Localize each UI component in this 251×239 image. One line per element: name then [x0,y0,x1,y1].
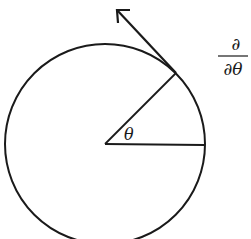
tangent-arrow-icon [117,10,176,73]
angle-label: θ [124,125,134,144]
angled-radius [105,73,176,144]
partial-derivative-label: ∂ ∂θ [218,34,248,79]
diagram-canvas: θ ∂ ∂θ [0,0,251,239]
operator-denominator: ∂θ [223,59,242,79]
operator-numerator: ∂ [232,34,241,54]
horizontal-radius [105,144,204,145]
